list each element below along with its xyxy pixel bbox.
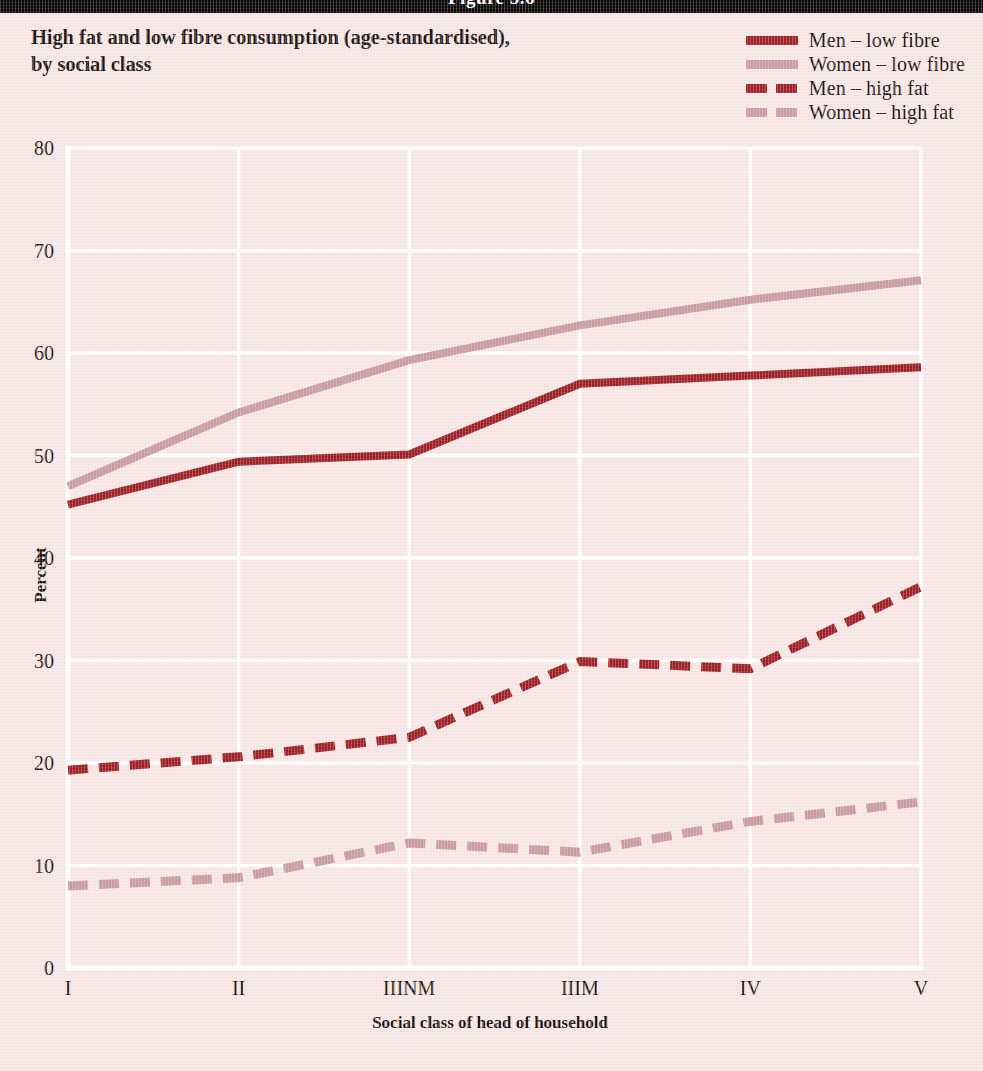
gridlines	[68, 148, 921, 968]
legend-swatch-women-low-fibre	[746, 60, 798, 69]
x-tick-label-I: I	[65, 977, 72, 999]
x-axis-title: Social class of head of household	[372, 1013, 608, 1032]
legend-item-men-low-fibre: Men – low fibre	[746, 28, 965, 52]
legend-label-women-low-fibre: Women – low fibre	[809, 53, 965, 76]
y-tick-label-60: 60	[34, 342, 54, 364]
x-tick-label-IV: IV	[740, 977, 762, 999]
y-tick-label-50: 50	[34, 445, 54, 467]
x-tick-label-V: V	[914, 977, 929, 999]
figure-number-label: Figure 5.6	[0, 0, 983, 9]
legend-label-men-high-fat: Men – high fat	[809, 77, 929, 100]
figure-banner: Figure 5.6	[0, 0, 983, 13]
legend-swatch-women-high-fat	[746, 108, 798, 117]
legend-label-men-low-fibre: Men – low fibre	[809, 29, 940, 52]
legend-swatch-men-low-fibre	[746, 36, 798, 45]
legend-swatch-men-high-fat	[746, 84, 798, 93]
series-line-men-low-fibre	[68, 367, 921, 504]
legend-item-women-low-fibre: Women – low fibre	[746, 52, 965, 76]
x-tick-labels: IIIIIINMIIIMIVV	[65, 977, 929, 999]
legend-item-women-high-fat: Women – high fat	[746, 100, 965, 124]
x-tick-label-II: II	[232, 977, 245, 999]
line-chart-svg: 01020304050607080 IIIIIINMIIIMIVV Percen…	[0, 0, 983, 1071]
series-line-women-high-fat	[68, 802, 921, 886]
series-line-men-high-fat	[68, 587, 921, 770]
x-tick-label-IIINM: IIINM	[383, 977, 435, 999]
y-tick-label-20: 20	[34, 752, 54, 774]
y-tick-label-80: 80	[34, 137, 54, 159]
y-tick-label-70: 70	[34, 240, 54, 262]
figure-page: Figure 5.6 High fat and low fibre consum…	[0, 0, 983, 1071]
legend-item-men-high-fat: Men – high fat	[746, 76, 965, 100]
chart-legend: Men – low fibre Women – low fibre Men – …	[746, 28, 965, 124]
legend-label-women-high-fat: Women – high fat	[809, 101, 954, 124]
y-axis-title: Percent	[31, 547, 50, 603]
x-tick-label-IIIM: IIIM	[561, 977, 599, 999]
y-tick-label-0: 0	[44, 957, 54, 979]
y-tick-label-30: 30	[34, 650, 54, 672]
y-tick-label-10: 10	[34, 855, 54, 877]
data-series	[68, 280, 921, 886]
plot-area: 01020304050607080 IIIIIINMIIIMIVV Percen…	[0, 0, 983, 1071]
